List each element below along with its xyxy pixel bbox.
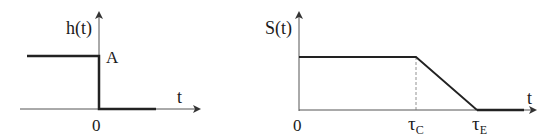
right-origin-label: 0 [293, 116, 302, 135]
left-y-label: h(t) [66, 18, 92, 39]
tau-c-label: τC [408, 113, 424, 137]
right-plot: S(t) t 0 τC τE [265, 13, 535, 137]
diagram-canvas: h(t) A t 0 S(t) t 0 τC τE [0, 0, 553, 139]
left-plot: h(t) A t 0 [20, 13, 199, 135]
left-curve [27, 56, 156, 109]
right-x-label: t [527, 88, 532, 108]
right-curve [299, 57, 477, 110]
tau-e-label: τE [472, 113, 487, 137]
left-origin-label: 0 [92, 116, 101, 135]
left-x-label: t [177, 87, 182, 107]
right-y-label: S(t) [265, 18, 292, 39]
left-level-label: A [106, 48, 119, 67]
